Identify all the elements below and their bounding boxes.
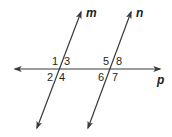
- angle-label-3: 3: [64, 55, 70, 67]
- angle-label-6: 6: [98, 71, 104, 83]
- angle-label-2: 2: [47, 71, 53, 83]
- line-label-n: n: [136, 6, 143, 20]
- angle-label-8: 8: [116, 55, 122, 67]
- line-label-m: m: [86, 6, 97, 20]
- angle-label-1: 1: [52, 55, 58, 67]
- parallel-line-m: [37, 12, 81, 128]
- parallel-line-n: [88, 12, 131, 128]
- angle-label-4: 4: [59, 71, 65, 83]
- line-label-p: p: [156, 73, 164, 87]
- parallel-lines-diagram: m n p 1 3 2 4 5 8 6 7: [0, 0, 172, 137]
- diagram-canvas: m n p 1 3 2 4 5 8 6 7: [0, 0, 172, 137]
- angle-label-7: 7: [112, 71, 118, 83]
- angle-label-5: 5: [103, 55, 109, 67]
